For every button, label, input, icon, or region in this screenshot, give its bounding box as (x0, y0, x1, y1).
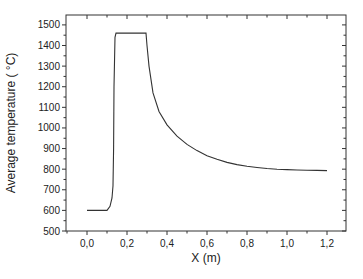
y-tick-label: 600 (43, 205, 60, 216)
plot-frame (66, 15, 346, 231)
y-tick-label: 1100 (38, 102, 60, 113)
y-tick-label: 500 (43, 226, 60, 237)
x-tick-label: 0,4 (160, 238, 174, 249)
y-tick-label: 1500 (38, 19, 61, 30)
y-tick-label: 1200 (38, 81, 61, 92)
y-tick-label: 700 (43, 184, 60, 195)
tick-labels: 0,00,20,40,60,81,01,25006007008009001000… (38, 19, 335, 249)
y-axis-title: Average temperature ( °C) (4, 53, 18, 194)
temperature-line (87, 33, 327, 210)
y-tick-label: 900 (43, 143, 60, 154)
x-axis-title: X (m) (191, 251, 220, 265)
y-tick-label: 1300 (38, 61, 61, 72)
x-tick-label: 0,8 (240, 238, 254, 249)
x-tick-label: 1,0 (280, 238, 294, 249)
y-tick-label: 1400 (38, 40, 61, 51)
y-tick-label: 800 (43, 164, 60, 175)
chart: 0,00,20,40,60,81,01,25006007008009001000… (0, 0, 363, 279)
x-tick-label: 0,6 (200, 238, 214, 249)
x-tick-label: 0,0 (80, 238, 94, 249)
y-tick-label: 1000 (38, 122, 61, 133)
axis-ticks (62, 15, 346, 235)
x-tick-label: 1,2 (320, 238, 334, 249)
x-tick-label: 0,2 (120, 238, 134, 249)
